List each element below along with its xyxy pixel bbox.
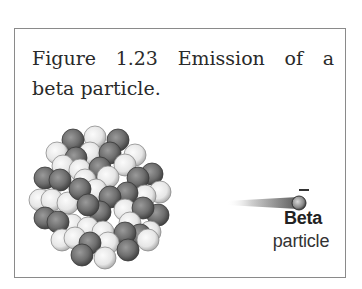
proton-sphere [49, 169, 71, 191]
beta-label: Beta [270, 208, 336, 229]
negative-charge-icon [299, 189, 309, 191]
proton-sphere [71, 244, 93, 266]
proton-sphere [117, 239, 139, 261]
neutron-sphere [137, 229, 159, 251]
particle-label: particle [264, 231, 338, 252]
neutron-sphere [94, 247, 116, 269]
nucleus [29, 126, 171, 269]
proton-sphere [77, 194, 99, 216]
